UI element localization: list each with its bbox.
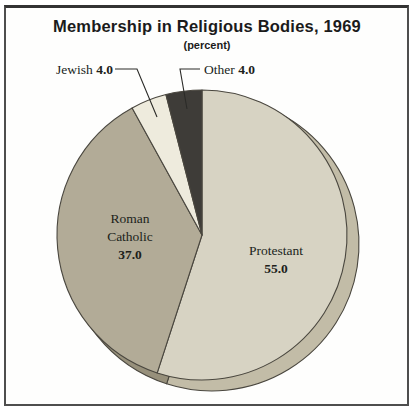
roman-catholic-label-text: Roman Catholic (94, 210, 166, 246)
jewish-slice-label: Jewish 4.0 (56, 61, 113, 79)
other-label-value: 4.0 (238, 62, 255, 77)
protestant-label-text: Protestant (234, 242, 318, 260)
protestant-label-value: 55.0 (234, 260, 318, 278)
roman-catholic-slice-label: Roman Catholic 37.0 (94, 210, 166, 264)
chart-title: Membership in Religious Bodies, 1969 (0, 17, 414, 36)
other-label-text: Other (204, 62, 235, 77)
chart-page: Membership in Religious Bodies, 1969 (pe… (0, 0, 414, 414)
chart-subtitle: (percent) (0, 39, 414, 51)
other-slice-label: Other 4.0 (204, 61, 255, 79)
jewish-label-value: 4.0 (96, 62, 113, 77)
protestant-slice-label: Protestant 55.0 (234, 242, 318, 278)
jewish-label-text: Jewish (56, 62, 93, 77)
roman-catholic-label-value: 37.0 (94, 246, 166, 264)
